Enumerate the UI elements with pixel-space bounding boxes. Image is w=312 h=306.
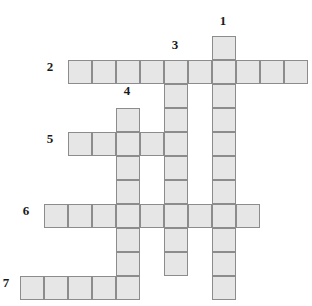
crossword-cell[interactable] (140, 204, 164, 228)
clue-number-4: 4 (119, 84, 135, 98)
crossword-cell[interactable] (212, 180, 236, 204)
crossword-cell[interactable] (92, 132, 116, 156)
crossword-cell[interactable] (44, 276, 68, 300)
crossword-cell[interactable] (92, 276, 116, 300)
crossword-cell[interactable] (188, 60, 212, 84)
clue-number-6: 6 (18, 204, 34, 218)
crossword-puzzle: 1234567 (0, 0, 312, 306)
crossword-cell[interactable] (164, 60, 188, 84)
crossword-cell[interactable] (188, 204, 212, 228)
crossword-cell[interactable] (116, 132, 140, 156)
clue-number-3: 3 (167, 38, 183, 52)
clue-number-2: 2 (42, 60, 58, 74)
crossword-cell[interactable] (260, 60, 284, 84)
crossword-cell[interactable] (164, 108, 188, 132)
crossword-cell[interactable] (236, 60, 260, 84)
crossword-cell[interactable] (140, 60, 164, 84)
crossword-cell[interactable] (92, 60, 116, 84)
crossword-cell[interactable] (212, 204, 236, 228)
clue-number-5: 5 (42, 132, 58, 146)
crossword-cell[interactable] (116, 228, 140, 252)
crossword-cell[interactable] (44, 204, 68, 228)
crossword-cell[interactable] (116, 204, 140, 228)
crossword-cell[interactable] (116, 156, 140, 180)
clue-number-7: 7 (0, 276, 14, 290)
crossword-cell[interactable] (284, 60, 308, 84)
crossword-cell[interactable] (164, 228, 188, 252)
crossword-cell[interactable] (116, 252, 140, 276)
crossword-cell[interactable] (164, 84, 188, 108)
crossword-cell[interactable] (20, 276, 44, 300)
crossword-cell[interactable] (116, 60, 140, 84)
crossword-cell[interactable] (164, 204, 188, 228)
crossword-cell[interactable] (140, 132, 164, 156)
crossword-cell[interactable] (212, 60, 236, 84)
crossword-cell[interactable] (68, 132, 92, 156)
crossword-cell[interactable] (212, 132, 236, 156)
clue-number-1: 1 (215, 14, 231, 28)
crossword-cell[interactable] (68, 276, 92, 300)
crossword-cell[interactable] (212, 84, 236, 108)
crossword-cell[interactable] (212, 252, 236, 276)
crossword-cell[interactable] (164, 132, 188, 156)
crossword-cell[interactable] (164, 156, 188, 180)
crossword-cell[interactable] (236, 204, 260, 228)
crossword-cell[interactable] (212, 156, 236, 180)
crossword-cell[interactable] (68, 204, 92, 228)
crossword-cell[interactable] (212, 228, 236, 252)
crossword-cell[interactable] (164, 252, 188, 276)
crossword-cell[interactable] (116, 276, 140, 300)
crossword-cell[interactable] (212, 36, 236, 60)
crossword-cell[interactable] (116, 180, 140, 204)
crossword-cell[interactable] (68, 60, 92, 84)
crossword-cell[interactable] (92, 204, 116, 228)
crossword-cell[interactable] (212, 276, 236, 300)
crossword-cell[interactable] (164, 180, 188, 204)
crossword-cell[interactable] (116, 108, 140, 132)
crossword-cell[interactable] (212, 108, 236, 132)
